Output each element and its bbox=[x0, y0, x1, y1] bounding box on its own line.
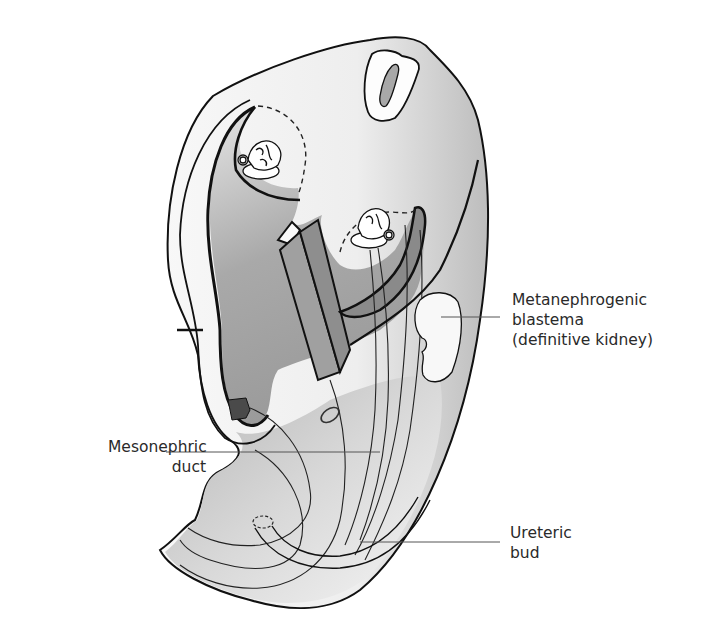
label-line: duct bbox=[108, 457, 206, 477]
label-metanephrogenic-blastema: Metanephrogenic blastema (definitive kid… bbox=[512, 290, 653, 350]
label-line: bud bbox=[510, 543, 572, 563]
label-line: blastema bbox=[512, 310, 653, 330]
label-line: Metanephrogenic bbox=[512, 290, 653, 310]
label-line: Ureteric bbox=[510, 523, 572, 543]
cloaca-block bbox=[228, 398, 250, 420]
label-mesonephric-duct: Mesonephric duct bbox=[108, 437, 206, 477]
label-ureteric-bud: Ureteric bud bbox=[510, 523, 572, 563]
label-line: (definitive kidney) bbox=[512, 330, 653, 350]
label-line: Mesonephric bbox=[108, 437, 206, 457]
